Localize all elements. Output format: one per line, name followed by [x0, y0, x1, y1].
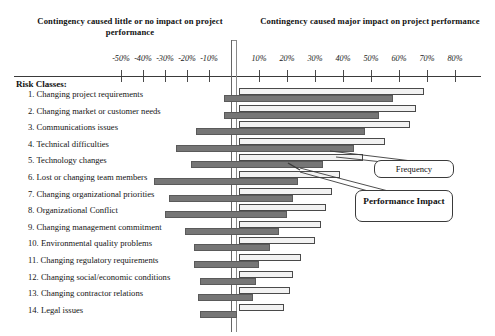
frequency-bar — [239, 88, 424, 95]
performance-impact-bar — [200, 311, 236, 318]
performance-impact-bar — [191, 161, 323, 168]
chart-row: 13. Changing contractor relations — [0, 287, 495, 303]
chart-row: 10. Environmental quality problems — [0, 237, 495, 253]
performance-impact-bar — [200, 278, 256, 285]
frequency-bar — [239, 154, 362, 161]
frequency-bar — [239, 221, 320, 228]
chart-row: 14. Legal issues — [0, 304, 495, 320]
callout-frequency: Frequency — [374, 160, 454, 178]
risk-class-label: 3. Communications issues — [28, 122, 118, 132]
performance-impact-bar — [224, 112, 379, 119]
chart-row: 11. Changing regulatory requirements — [0, 254, 495, 270]
risk-class-label: 6. Lost or changing team members — [28, 172, 147, 182]
frequency-bar — [239, 204, 326, 211]
risk-class-label: 11. Changing regulatory requirements — [28, 255, 158, 265]
performance-impact-bar — [165, 211, 287, 218]
performance-impact-bar — [224, 95, 393, 102]
frequency-bar — [239, 237, 315, 244]
risk-class-label: 1. Changing project requirements — [28, 89, 143, 99]
risk-class-label: 2. Changing market or customer needs — [28, 106, 161, 116]
chart-row: 9. Changing management commitment — [0, 221, 495, 237]
risk-class-label: 14. Legal issues — [28, 305, 83, 315]
performance-impact-bar — [185, 228, 279, 235]
frequency-bar — [239, 171, 340, 178]
risk-class-label: 13. Changing contractor relations — [28, 288, 143, 298]
performance-impact-bar — [198, 294, 253, 301]
frequency-bar — [239, 105, 415, 112]
performance-impact-bar — [194, 244, 271, 251]
risk-class-label: 10. Environmental quality problems — [28, 238, 152, 248]
risk-class-label: 9. Changing management commitment — [28, 222, 162, 232]
frequency-bar — [239, 121, 410, 128]
bar-chart-figure: Contingency caused little or no impact o… — [0, 0, 495, 336]
risk-class-label: 7. Changing organizational priorities — [28, 189, 154, 199]
frequency-bar — [239, 188, 331, 195]
performance-impact-bar — [176, 145, 354, 152]
performance-impact-bar — [194, 261, 259, 268]
chart-row: 1. Changing project requirements — [0, 88, 495, 104]
chart-row: 3. Communications issues — [0, 121, 495, 137]
performance-impact-bar — [169, 195, 292, 202]
performance-impact-bar — [196, 128, 366, 135]
risk-class-label: 5. Technology changes — [28, 155, 107, 165]
risk-class-label: 8. Organizational Conflict — [28, 205, 118, 215]
frequency-bar — [239, 254, 301, 261]
chart-row: 2. Changing market or customer needs — [0, 105, 495, 121]
risk-class-label: 12. Changing social/economic conditions — [28, 272, 170, 282]
frequency-bar — [239, 287, 289, 294]
chart-row: 12. Changing social/economic conditions — [0, 271, 495, 287]
risk-class-label: 4. Technical difficulties — [28, 139, 109, 149]
frequency-bar — [239, 138, 385, 145]
performance-impact-bar — [154, 178, 298, 185]
frequency-bar — [239, 304, 284, 311]
callout-performance-impact: Performance Impact — [355, 190, 453, 222]
chart-row: 4. Technical difficulties — [0, 138, 495, 154]
frequency-bar — [239, 271, 292, 278]
